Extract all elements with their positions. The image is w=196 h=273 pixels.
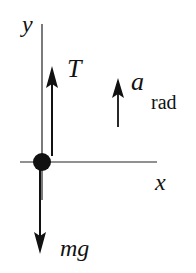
free-body-diagram: y x T mg a rad <box>0 0 196 273</box>
radial-acceleration: a rad <box>112 67 177 127</box>
body-dot <box>33 153 51 171</box>
tension-label: T <box>67 54 83 83</box>
acceleration-subscript: rad <box>151 91 177 113</box>
y-axis-label: y <box>20 11 33 37</box>
x-axis-label: x <box>154 169 166 195</box>
tension-force: T <box>46 54 83 156</box>
weight-label: mg <box>60 235 89 261</box>
acceleration-symbol: a <box>131 67 144 96</box>
